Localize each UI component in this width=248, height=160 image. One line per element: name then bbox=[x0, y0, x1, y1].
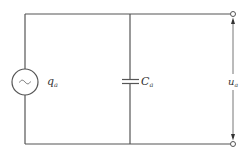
source-label: qa bbox=[47, 75, 58, 89]
output-terminal-top bbox=[231, 12, 236, 17]
capacitor-icon bbox=[122, 80, 139, 84]
output-voltage-label: ua bbox=[228, 76, 238, 88]
circuit-diagram: qa Ca ua bbox=[0, 0, 248, 160]
capacitor-label: Ca bbox=[141, 75, 153, 89]
ac-source-icon bbox=[12, 69, 38, 95]
output-terminal-bottom bbox=[231, 142, 236, 147]
